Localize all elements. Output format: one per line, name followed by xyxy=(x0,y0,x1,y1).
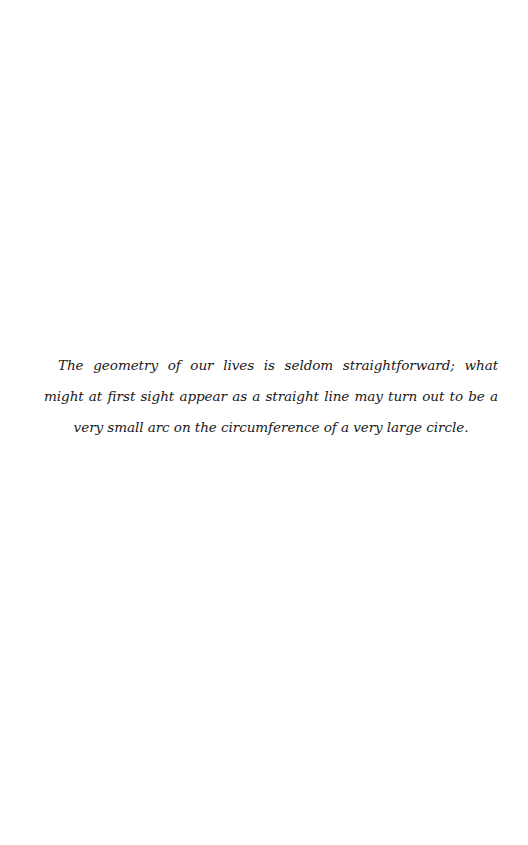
document-page: The geometry of our lives is seldom stra… xyxy=(0,0,528,845)
epigraph-quote: The geometry of our lives is seldom stra… xyxy=(44,350,498,443)
